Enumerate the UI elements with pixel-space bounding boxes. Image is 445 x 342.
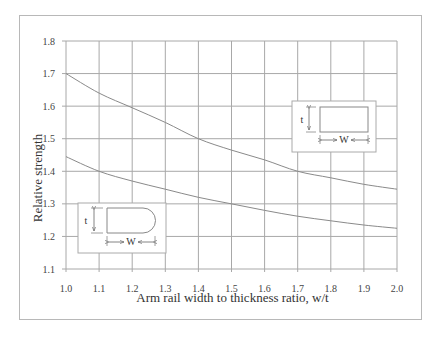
y-tick-label: 1.1 — [43, 264, 56, 275]
y-tick-label: 1.7 — [43, 68, 56, 79]
y-axis-label: Relative strength — [30, 128, 46, 228]
w-label: W — [339, 134, 349, 145]
w-label-2: W — [126, 236, 136, 247]
y-tick-label: 1.2 — [43, 231, 56, 242]
rounded-end-shape — [107, 208, 156, 233]
y-tick-label: 1.8 — [43, 36, 56, 47]
x-axis-label: Arm rail width to thickness ratio, w/t — [0, 290, 445, 306]
t-label-2: t — [85, 215, 88, 226]
y-tick-label: 1.6 — [43, 101, 56, 112]
t-label: t — [301, 114, 304, 125]
rectangle-shape — [320, 107, 368, 132]
